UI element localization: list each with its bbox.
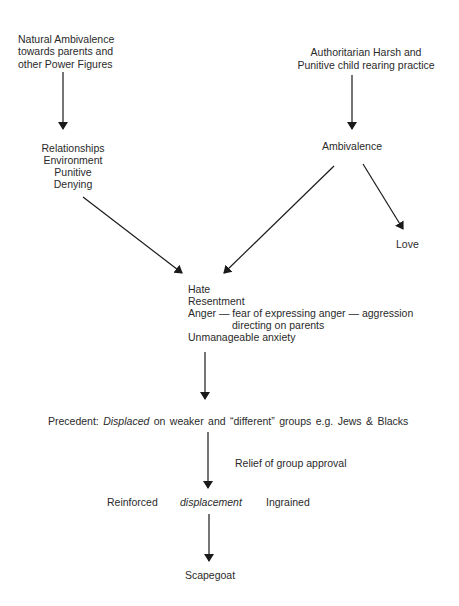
node-authoritarian: Authoritarian Harsh and Punitive child r… [292, 46, 440, 71]
node-natural-ambivalence-line-3: other Power Figures [18, 58, 114, 70]
node-authoritarian-line-1: Authoritarian Harsh and [292, 46, 440, 59]
node-love: Love [396, 238, 419, 251]
node-hate-block: Hate Resentment Anger — fear of expressi… [188, 283, 413, 343]
edge-label-relief: Relief of group approval [235, 457, 347, 470]
precedent-emphasis: Displaced [103, 415, 149, 427]
node-relationships-line-1: Relationships [23, 142, 123, 154]
node-reinforced-left: Reinforced [107, 496, 158, 509]
node-precedent: Precedent: Displaced on weaker and “diff… [48, 415, 408, 428]
node-natural-ambivalence: Natural Ambivalence towards parents and … [18, 33, 114, 70]
node-ambivalence: Ambivalence [312, 140, 392, 153]
anger-line: Anger — fear of expressing anger — aggre… [188, 307, 413, 319]
resentment-line: Resentment [188, 295, 413, 307]
node-natural-ambivalence-line-2: towards parents and [18, 45, 114, 57]
precedent-suffix: on weaker and “different” groups e.g. Je… [149, 415, 408, 427]
node-reinforced-middle: displacement [180, 496, 242, 509]
anxiety-line: Unmanageable anxiety [188, 331, 413, 343]
arrow-ambivalence-to-hate [224, 166, 334, 273]
node-relationships-line-3: Punitive [23, 166, 123, 178]
precedent-prefix: Precedent: [48, 415, 103, 427]
arrow-ambivalence-to-love [363, 164, 403, 229]
node-scapegoat: Scapegoat [170, 569, 250, 582]
hate-line: Hate [188, 283, 413, 295]
node-reinforced-right: Ingrained [266, 496, 310, 509]
node-natural-ambivalence-line-1: Natural Ambivalence [18, 33, 114, 45]
arrow-relationships-to-hate [83, 197, 182, 273]
node-relationships-line-2: Environment [23, 154, 123, 166]
node-authoritarian-line-2: Punitive child rearing practice [292, 59, 440, 72]
directing-line: directing on parents [188, 319, 413, 331]
node-relationships-line-4: Denying [23, 178, 123, 190]
node-relationships: Relationships Environment Punitive Denyi… [23, 142, 123, 190]
